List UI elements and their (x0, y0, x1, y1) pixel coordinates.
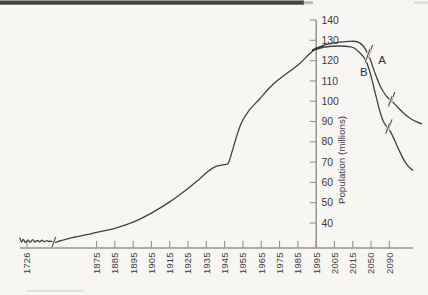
x-tick-label: 1965 (257, 253, 267, 274)
scan-artifact-bottom-smudge (26, 290, 84, 292)
x-tick-label: 1995 (312, 253, 322, 274)
x-tick-label: 2015 (348, 253, 358, 274)
x-tick-label: 1875 (92, 253, 102, 274)
y-tick-label: 90 (322, 116, 334, 127)
y-tick-label: 80 (322, 136, 334, 147)
y-tick-label: 110 (322, 76, 339, 87)
x-tick-label: 1726 (22, 253, 32, 274)
x-tick-label: 2005 (330, 253, 340, 274)
x-tick-label: 1895 (129, 253, 139, 274)
y-tick-label: 60 (322, 177, 334, 188)
x-tick-label: 1945 (220, 253, 230, 274)
scan-artifact-top-band-fade (303, 1, 313, 4)
y-tick-label: 50 (322, 197, 334, 208)
y-axis-title: Population (millions) (336, 116, 347, 204)
x-tick-label: 1905 (147, 253, 157, 274)
historical-curve (20, 46, 324, 243)
y-tick-label: 100 (322, 96, 340, 107)
x-tick-label: 1885 (110, 253, 120, 274)
x-tick-label: 1915 (165, 253, 175, 274)
x-tick-label: 1935 (202, 253, 212, 274)
x-tick-label: 1985 (293, 253, 303, 274)
x-tick-label: 2090 (385, 253, 395, 274)
population-line-chart: 1726187518851895190519151925193519451955… (0, 0, 428, 295)
annotation-a: A (378, 54, 386, 66)
y-tick-label: 70 (322, 157, 334, 168)
x-tick-label: 1975 (275, 253, 285, 274)
scan-artifact-top-band (0, 1, 304, 5)
y-tick-label: 40 (322, 218, 334, 229)
scan-artifact-top-right (414, 2, 428, 4)
scanned-chart-figure: 1726187518851895190519151925193519451955… (0, 0, 428, 295)
x-tick-label: 1925 (183, 253, 193, 274)
annotation-b: B (360, 66, 368, 78)
x-tick-label: 2050 (366, 253, 376, 274)
y-tick-label: 140 (322, 15, 340, 26)
y-tick-label: 120 (322, 55, 340, 66)
x-tick-label: 1955 (238, 253, 248, 274)
